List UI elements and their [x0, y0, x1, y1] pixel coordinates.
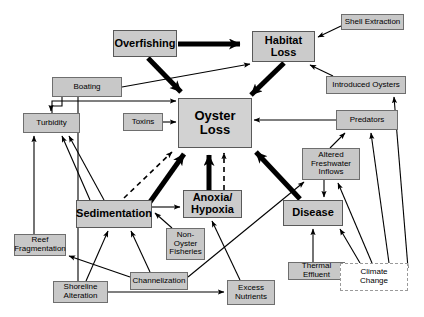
- edge-sedimentation-turbidity-b: [69, 136, 104, 200]
- edge-boating-habitat-loss: [122, 64, 250, 87]
- node-sedimentation[interactable]: Sedimentation: [76, 200, 152, 228]
- node-thermal-effluent[interactable]: Thermal Effluent: [288, 262, 345, 280]
- node-shoreline-alteration[interactable]: Shoreline Alteration: [53, 281, 108, 303]
- node-non-oyster-fisheries[interactable]: Non- Oyster Fisheries: [166, 228, 205, 260]
- node-predators[interactable]: Predators: [336, 110, 398, 130]
- node-reef-fragmentation[interactable]: Reef Fragmentation: [14, 234, 66, 256]
- edge-climate-change-predators: [371, 133, 389, 263]
- node-excess-nutrients[interactable]: Excess Nutrients: [227, 280, 275, 305]
- edge-climate-change-altered-freshwater: [338, 183, 372, 263]
- edge-habitat-loss-oyster-loss: [251, 63, 284, 95]
- edge-excess-nutrients-anoxia: [212, 221, 240, 280]
- edge-non-oyster-fisheries-sedimentation: [155, 213, 172, 228]
- edge-overfishing-oyster-loss: [148, 58, 181, 92]
- node-turbidity[interactable]: Turbidity: [23, 113, 80, 133]
- edge-sedimentation-oyster-loss-dashed: [124, 152, 172, 198]
- edge-channelization-sedimentation: [131, 231, 150, 272]
- node-shell-extraction[interactable]: Shell Extraction: [341, 14, 404, 30]
- node-toxins[interactable]: Toxins: [123, 113, 163, 131]
- node-channelization[interactable]: Channelization: [130, 272, 188, 290]
- edge-shoreline-alteration-sedimentation: [86, 231, 108, 281]
- node-introduced-oysters[interactable]: Introduced Oysters: [326, 76, 406, 94]
- edge-sedimentation-turbidity-a: [62, 136, 90, 200]
- oyster-loss-diagram: Overfishing Habitat Loss Shell Extractio…: [0, 0, 424, 317]
- edge-altered-freshwater-predators: [330, 133, 345, 148]
- node-altered-freshwater-inflows[interactable]: Altered Freshwater Inflows: [302, 148, 360, 180]
- edge-boating-turbidity: [51, 97, 62, 111]
- edge-turbidity-oyster-loss: [52, 101, 176, 113]
- edge-shell-extraction-habitat-loss: [318, 26, 341, 37]
- node-anoxia-hypoxia[interactable]: Anoxia/ Hypoxia: [183, 190, 242, 218]
- node-boating[interactable]: Boating: [52, 77, 122, 97]
- node-disease[interactable]: Disease: [283, 200, 343, 226]
- edge-introduced-oysters-habitat-loss: [310, 65, 333, 76]
- edge-climate-change-disease: [340, 229, 360, 263]
- node-oyster-loss[interactable]: Oyster Loss: [178, 98, 252, 148]
- node-habitat-loss[interactable]: Habitat Loss: [252, 31, 315, 62]
- node-climate-change[interactable]: Climate Change: [340, 263, 408, 291]
- node-overfishing[interactable]: Overfishing: [113, 30, 177, 57]
- edge-sedimentation-oyster-loss: [150, 154, 184, 202]
- edge-disease-oyster-loss: [256, 152, 300, 199]
